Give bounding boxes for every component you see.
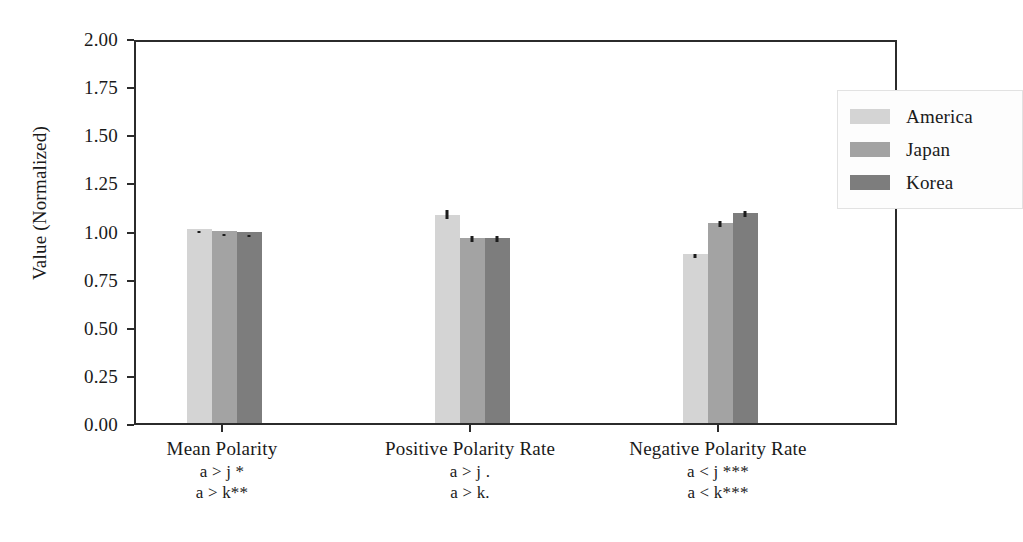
bar-japan-1 (212, 231, 237, 424)
y-axis-tick-label: 2.00 (8, 30, 118, 49)
error-bar-japan-1 (223, 234, 226, 236)
chart-legend: AmericaJapanKorea (837, 90, 1023, 209)
y-axis-tick-label: 1.00 (8, 223, 118, 242)
legend-swatch-icon (850, 109, 890, 124)
significance-annotation: a < j *** (568, 461, 868, 482)
error-bar-korea-2 (496, 236, 499, 242)
plot-area: AmericaJapanKorea (134, 40, 897, 425)
bar-korea-3 (733, 213, 758, 423)
y-axis-tick-label: 0.75 (8, 271, 118, 290)
y-axis-tick-label: 1.50 (8, 126, 118, 145)
error-bar-america-3 (694, 254, 697, 258)
error-bar-japan-3 (719, 221, 722, 227)
bar-america-3 (683, 254, 708, 423)
legend-label: Korea (906, 172, 953, 194)
y-axis-tick-label: 0.50 (8, 319, 118, 338)
x-axis-group-label-3: Negative Polarity Ratea < j ***a < k*** (568, 437, 868, 503)
y-axis-tick-label: 0.00 (8, 415, 118, 434)
x-axis-tick-mark (469, 425, 471, 432)
y-axis-tick-mark (127, 328, 134, 330)
bar-japan-2 (460, 238, 485, 423)
y-axis-tick-mark (127, 39, 134, 41)
y-axis-tick-mark (127, 424, 134, 426)
y-axis-tick-mark (127, 280, 134, 282)
y-axis-tick-label: 1.75 (8, 78, 118, 97)
significance-annotation: a < k*** (568, 482, 868, 503)
legend-swatch-icon (850, 175, 890, 190)
y-axis-tick-mark (127, 232, 134, 234)
y-axis-tick-mark (127, 183, 134, 185)
error-bar-america-1 (198, 231, 201, 233)
legend-item-america[interactable]: America (850, 100, 1012, 133)
legend-item-japan[interactable]: Japan (850, 133, 1012, 166)
error-bar-japan-2 (471, 236, 474, 242)
y-axis-tick-label: 1.25 (8, 174, 118, 193)
y-axis-tick-mark (127, 87, 134, 89)
y-axis-tick-mark (127, 135, 134, 137)
bar-korea-1 (237, 232, 262, 423)
y-axis-tick-mark (127, 376, 134, 378)
bar-japan-3 (708, 223, 733, 423)
legend-swatch-icon (850, 142, 890, 157)
x-axis-category-name: Negative Polarity Rate (568, 437, 868, 461)
x-axis-tick-mark (221, 425, 223, 432)
legend-item-korea[interactable]: Korea (850, 166, 1012, 199)
legend-label: America (906, 106, 973, 128)
bar-america-2 (435, 215, 460, 423)
y-axis-tick-label: 0.25 (8, 367, 118, 386)
x-axis-tick-mark (717, 425, 719, 432)
bar-korea-2 (485, 238, 510, 423)
bar-america-1 (187, 229, 212, 423)
legend-label: Japan (906, 139, 950, 161)
error-bar-korea-3 (744, 211, 747, 217)
error-bar-korea-1 (248, 235, 251, 237)
error-bar-america-2 (446, 210, 449, 219)
